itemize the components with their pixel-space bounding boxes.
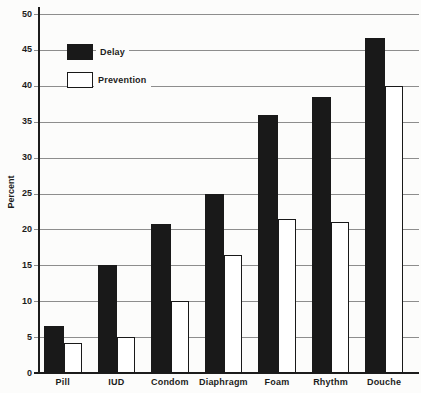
prevention-bar-diaphragm bbox=[224, 255, 242, 373]
prevention-bar-foam bbox=[278, 219, 296, 373]
prevention-bar-iud bbox=[117, 337, 135, 373]
delay-bar-foam bbox=[258, 115, 278, 373]
gridline-25 bbox=[34, 194, 419, 195]
legend-prevention-swatch bbox=[67, 72, 93, 88]
legend-prevention-label: Prevention bbox=[94, 72, 151, 88]
delay-bar-condom bbox=[151, 224, 171, 373]
y-tick-label-35: 35 bbox=[0, 116, 32, 127]
y-tick-label-30: 30 bbox=[0, 152, 32, 163]
delay-bar-iud bbox=[98, 265, 118, 373]
prevention-bar-pill bbox=[64, 343, 82, 373]
y-tick-label-20: 20 bbox=[0, 224, 32, 235]
y-tick-label-45: 45 bbox=[0, 44, 32, 55]
delay-bar-rhythm bbox=[312, 97, 332, 373]
legend-delay-label: Delay bbox=[96, 44, 129, 60]
gridline-35 bbox=[34, 122, 419, 123]
prevention-bar-condom bbox=[171, 301, 189, 373]
gridline-20 bbox=[34, 229, 419, 230]
y-tick-label-10: 10 bbox=[0, 296, 32, 307]
y-tick-label-15: 15 bbox=[0, 260, 32, 271]
y-tick-label-5: 5 bbox=[0, 332, 32, 343]
delay-bar-diaphragm bbox=[205, 194, 225, 374]
gridline-50 bbox=[34, 14, 419, 15]
gridline-30 bbox=[34, 158, 419, 159]
prevention-bar-rhythm bbox=[331, 222, 349, 373]
delay-bar-pill bbox=[44, 326, 64, 373]
y-tick-label-50: 50 bbox=[0, 9, 32, 20]
legend-delay-swatch bbox=[67, 44, 93, 60]
x-category-label-douche: Douche bbox=[349, 377, 419, 387]
y-tick-label-25: 25 bbox=[0, 188, 32, 199]
delay-bar-douche bbox=[365, 38, 385, 373]
prevention-bar-douche bbox=[385, 86, 403, 373]
y-tick-label-40: 40 bbox=[0, 80, 32, 91]
bar-chart-figure: Percent 05101520253035404550 PillIUDCond… bbox=[0, 0, 421, 393]
y-axis-line bbox=[38, 7, 40, 374]
